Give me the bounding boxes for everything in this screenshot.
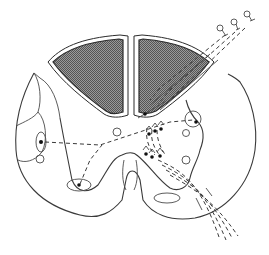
dorsal-columns <box>48 35 214 117</box>
arrowheads <box>143 121 164 159</box>
ventral-root-fibers <box>158 160 238 240</box>
ganglion-cell-icon <box>217 11 255 36</box>
gray-matter <box>60 100 203 191</box>
cord-outline <box>16 73 256 219</box>
spinal-cord-diagram <box>0 0 269 255</box>
